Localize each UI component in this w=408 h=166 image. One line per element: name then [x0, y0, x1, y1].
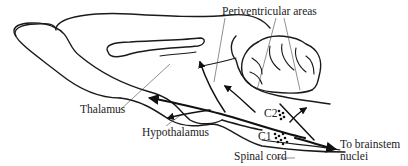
label-to-brainstem: To brainstem — [340, 138, 400, 150]
leader-periventricular-2 — [257, 18, 276, 90]
pathway-brainstem — [295, 138, 335, 149]
label-thalamus: Thalamus — [80, 103, 126, 115]
pathway-c2-up — [290, 108, 306, 122]
label-periventricular-areas: Periventricular areas — [222, 5, 317, 17]
label-c1: C1 — [258, 130, 272, 142]
cerebellum-fold — [306, 56, 314, 74]
leader-thalamus — [120, 64, 170, 110]
leader-periventricular-3 — [284, 18, 300, 90]
brainstem-ventral — [120, 98, 345, 152]
label-c2: C2 — [264, 107, 278, 119]
cerebellum-fold — [282, 44, 294, 70]
cerebellum-fold — [269, 46, 280, 70]
label-hypothalamus: Hypothalamus — [142, 126, 210, 139]
c2-cell-group — [278, 110, 286, 121]
cerebrum-top-edge — [14, 23, 120, 98]
brain-diagram: Periventricular areas Thalamus Hypothala… — [0, 0, 408, 166]
cerebellum-fold — [295, 48, 306, 72]
label-nuclei: nuclei — [340, 150, 368, 162]
brainstem-top — [231, 36, 330, 104]
leader-periventricular-1 — [214, 18, 225, 82]
cerebellum-outline — [258, 36, 321, 90]
pathway-hypothalamus — [168, 110, 210, 118]
fornix-line — [160, 52, 196, 56]
pathway-periventricular — [225, 86, 255, 112]
pathway-thalamus — [200, 62, 225, 112]
corpus-callosum — [107, 38, 204, 57]
thalamus-edge — [202, 58, 236, 66]
cerebellum-fold — [252, 58, 262, 74]
label-spinal-cord: Spinal cord — [234, 150, 287, 163]
pathway-c2-cross — [280, 104, 314, 140]
